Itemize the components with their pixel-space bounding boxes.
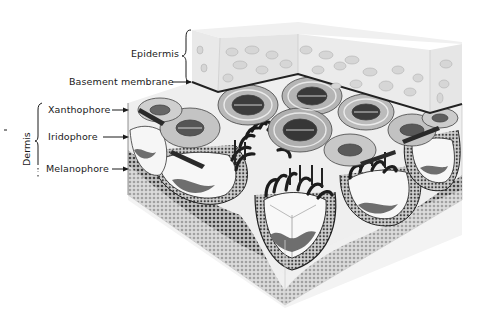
dermis-brace <box>35 103 42 165</box>
label-basement-membrane: Basement membrane <box>69 76 174 87</box>
epidermis-brace <box>182 30 191 82</box>
dermis-block <box>128 74 462 310</box>
chromatophore-diagram: Epidermis Basement membrane Dermis Xanth… <box>0 0 481 316</box>
label-epidermis: Epidermis <box>131 48 179 59</box>
label-melanophore: Melanophore <box>46 163 109 174</box>
skin-block-illustration <box>0 0 481 316</box>
label-xanthophore: Xanthophore <box>48 104 110 115</box>
label-iridophore: Iridophore <box>48 131 98 142</box>
label-dermis: Dermis <box>21 132 32 166</box>
